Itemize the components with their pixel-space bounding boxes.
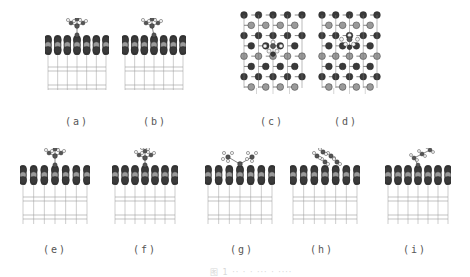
panel-label-i: (i) [403,244,427,255]
top-view-structure-image [240,10,306,96]
panel-d [318,10,381,96]
panel-a [45,18,109,90]
top-view-structure-image [318,10,381,96]
panel-label-b: (b) [143,116,167,127]
side-view-structure-image [290,148,360,224]
side-view-structure-image [112,148,178,224]
panel-label-f: (f) [133,244,157,255]
panel-label-g: (g) [230,244,254,255]
side-view-structure-image [205,148,275,224]
panel-label-c: (c) [260,116,284,127]
panel-g [205,148,275,224]
panel-e [20,148,90,224]
figure-caption: 图 1 ·· · · ··· · ···· [210,266,292,277]
panel-h [290,148,360,224]
panel-label-a: (a) [65,116,89,127]
side-view-structure-image [20,148,90,224]
panel-label-e: (e) [43,244,67,255]
panel-c [240,10,306,96]
side-view-structure-image [385,148,451,224]
panel-label-d: (d) [334,116,358,127]
side-view-structure-image [122,18,186,90]
panel-label-h: (h) [310,244,334,255]
panel-i [385,148,451,224]
panel-b [122,18,186,90]
panel-f [112,148,178,224]
side-view-structure-image [45,18,109,90]
